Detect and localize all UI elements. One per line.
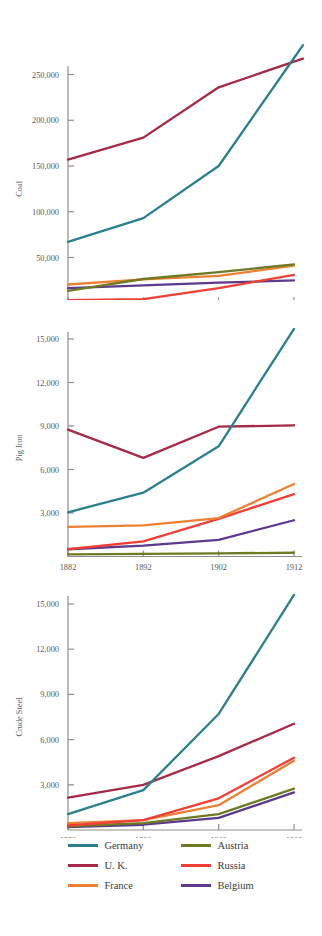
y-axis-title: Pig Iron — [15, 433, 24, 461]
y-axis-tick-label: 3,000 — [40, 509, 59, 518]
y-axis-tick-label: 9,000 — [40, 422, 59, 431]
legend-columns: GermanyU. K.FranceAustriaRussiaBelgium — [68, 838, 253, 900]
y-axis-tick-label: 50,000 — [36, 254, 59, 263]
y-axis-tick-label: 9,000 — [40, 690, 59, 699]
y-axis-tick-label: 15,000 — [36, 600, 59, 609]
legend-label: France — [104, 880, 133, 892]
legend-swatch-icon — [68, 884, 98, 887]
legend-item-u-k[interactable]: U. K. — [68, 858, 143, 873]
panel-crude-steel: 3,0006,0009,00012,00015,0001882189219021… — [0, 568, 322, 838]
legend-swatch-icon — [68, 864, 98, 867]
y-axis-tick-label: 3,000 — [40, 781, 59, 790]
y-axis-tick-label: 6,000 — [40, 466, 59, 475]
legend-label: Germany — [104, 840, 143, 852]
legend-swatch-icon — [181, 864, 211, 867]
y-axis-tick-label: 200,000 — [32, 116, 59, 125]
y-axis-tick-label: 12,000 — [36, 379, 59, 388]
y-axis-tick-label: 100,000 — [32, 208, 59, 217]
legend-item-russia[interactable]: Russia — [181, 858, 253, 873]
legend-label: Belgium — [217, 880, 253, 892]
legend-label: Austria — [217, 840, 248, 852]
pig-iron-chart-plot: 3,0006,0009,00012,00015,0001882189219021… — [0, 300, 322, 570]
panel-coal: 50,000100,000150,000200,000250,000188218… — [0, 30, 322, 300]
legend-swatch-icon — [68, 844, 98, 847]
legend-column-2: AustriaRussiaBelgium — [181, 838, 253, 900]
legend-label: Russia — [217, 860, 245, 872]
legend-item-germany[interactable]: Germany — [68, 838, 143, 853]
legend-swatch-icon — [181, 884, 211, 887]
y-axis-tick-label: 6,000 — [40, 736, 59, 745]
chart-legend: GermanyU. K.FranceAustriaRussiaBelgium — [0, 838, 322, 900]
series-line-germany — [68, 329, 294, 512]
y-axis-tick-label: 150,000 — [32, 162, 59, 171]
coal-chart-plot: 50,000100,000150,000200,000250,000188218… — [0, 30, 322, 300]
y-axis-tick-label: 15,000 — [36, 335, 59, 344]
legend-item-austria[interactable]: Austria — [181, 838, 253, 853]
y-axis-title: Coal — [15, 180, 24, 196]
legend-item-france[interactable]: France — [68, 878, 143, 893]
legend-swatch-icon — [181, 844, 211, 847]
legend-item-belgium[interactable]: Belgium — [181, 878, 253, 893]
legend-label: U. K. — [104, 860, 127, 872]
y-axis-tick-label: 250,000 — [32, 71, 59, 80]
series-line-austria — [68, 553, 294, 555]
panel-pig-iron: 3,0006,0009,00012,00015,0001882189219021… — [0, 300, 322, 570]
series-line-germany — [68, 45, 303, 242]
series-line-u-k — [68, 724, 294, 798]
y-axis-title: Crude Steel — [15, 697, 24, 737]
y-axis-tick-label: 12,000 — [36, 645, 59, 654]
series-line-u-k — [68, 59, 303, 160]
series-line-u-k — [68, 425, 294, 458]
legend-column-1: GermanyU. K.France — [68, 838, 143, 900]
multi-panel-line-chart-figure: 50,000100,000150,000200,000250,000188218… — [0, 0, 322, 936]
crude-steel-chart-plot: 3,0006,0009,00012,00015,0001882189219021… — [0, 568, 322, 838]
